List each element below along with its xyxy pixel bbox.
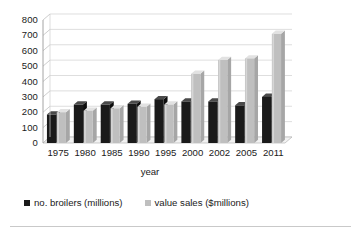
x-axis-tick-label: 1985 — [97, 148, 127, 158]
bar — [57, 109, 70, 143]
bottom-divider — [10, 226, 351, 227]
x-axis-tick-label: 2011 — [258, 148, 288, 158]
x-axis-tick-label: 1995 — [151, 148, 181, 158]
x-axis-tick-label: 2000 — [178, 148, 208, 158]
bar — [272, 31, 285, 143]
bar — [84, 107, 97, 143]
bar — [245, 55, 258, 143]
plot-canvas — [0, 0, 361, 160]
legend-label: value sales ($millions) — [155, 198, 249, 208]
x-axis-tick-label: 1990 — [124, 148, 154, 158]
x-axis-tick-label: 2002 — [205, 148, 235, 158]
legend-item-no-broilers: no. broilers (millions) — [24, 198, 123, 208]
x-axis-title: year — [0, 166, 300, 177]
x-axis-tick-label: 1975 — [43, 148, 73, 158]
bar — [218, 57, 231, 143]
x-axis-tick-labels: 197519801985199019952000200220052011 — [0, 148, 361, 162]
legend-swatch-icon — [145, 200, 151, 206]
bar — [191, 71, 204, 143]
legend-swatch-icon — [24, 200, 30, 206]
bar — [164, 101, 177, 143]
plot-area: 8007006005004003002001000 19751980198519… — [0, 0, 361, 160]
bar-chart-figure: 8007006005004003002001000 19751980198519… — [0, 0, 361, 233]
x-axis-tick-label: 1980 — [70, 148, 100, 158]
legend-label: no. broilers (millions) — [34, 198, 123, 208]
chart-legend: no. broilers (millions) value sales ($mi… — [24, 196, 249, 210]
x-axis-tick-label: 2005 — [231, 148, 261, 158]
bar — [137, 104, 150, 143]
legend-item-value-sales: value sales ($millions) — [145, 198, 249, 208]
bar — [111, 105, 124, 143]
